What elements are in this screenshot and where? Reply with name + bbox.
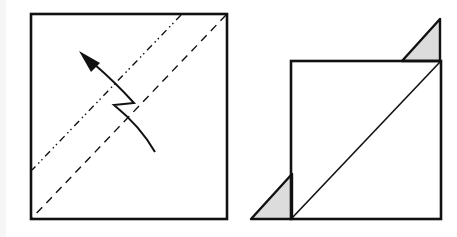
bottom-flap <box>251 174 292 219</box>
fold-diagram <box>0 0 457 237</box>
top-flap <box>402 19 440 61</box>
diagonal-edge <box>292 62 440 218</box>
step-1 <box>31 14 227 219</box>
step-2 <box>251 19 441 219</box>
